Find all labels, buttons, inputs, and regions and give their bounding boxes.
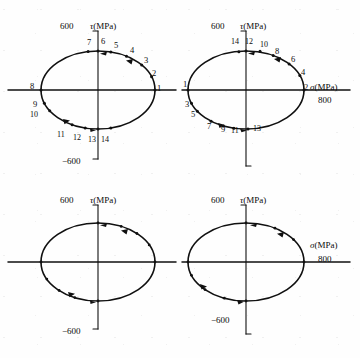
point-label-9-tl: 9 [33,100,37,109]
tau-axis-title-tr: τ(MPa) [240,22,266,31]
point-label-8-tr: 8 [275,47,279,56]
plot-bottom-left-graphic [0,179,180,358]
tau-min-label-bl: −600 [62,327,81,336]
point-label-1-tl: 1 [157,84,161,93]
point-label-5-tr: 5 [191,110,195,119]
figure-page: 600 τ(MPa) −600 1 2 3 4 5 6 7 8 9 10 11 … [0,0,360,358]
point-label-14-tr: 14 [231,38,239,46]
point-label-4-tl: 4 [130,46,134,55]
direction-arrowheads [218,52,281,133]
plot-bottom-right-graphic [180,179,360,358]
point-label-12-tl: 12 [73,134,81,142]
tau-max-label-tl: 600 [60,22,74,31]
tau-axis-title-br: τ(MPa) [240,196,266,205]
direction-arrowheads [200,223,284,304]
tau-unit-bl: (MPa) [93,195,116,205]
tau-max-label-tr: 600 [211,22,225,31]
tau-min-label-br: −600 [211,316,230,325]
point-label-1-tr: 1 [183,80,187,89]
sigma-axis-title-br: σ(MPa) [310,241,337,250]
point-label-13-tl: 13 [88,136,96,144]
sigma-unit-tr: (MPa) [314,82,337,92]
sigma-axis-title-tr: σ(MPa) [310,83,337,92]
point-label-11-tl: 11 [57,131,65,139]
point-label-2-tr: 2 [304,83,308,92]
sigma-max-label-br: 800 [318,255,332,264]
point-label-10-tr: 10 [260,41,268,49]
tau-unit-tr: (MPa) [243,21,266,31]
plot-panel-bottom-left: 600 τ(MPa) −600 [0,179,180,358]
plot-panel-top-left: 600 τ(MPa) −600 1 2 3 4 5 6 7 8 9 10 11 … [0,0,180,179]
tau-min-label-tl: −600 [62,157,81,166]
point-label-13-tr: 13 [253,125,261,133]
point-label-8-tl: 8 [30,82,34,91]
tau-max-label-bl: 600 [60,196,74,205]
point-label-6-tr: 6 [291,55,295,64]
point-label-4-tr: 4 [301,68,305,77]
point-label-14-tl: 14 [101,136,109,144]
point-label-7-tl: 7 [87,38,91,47]
point-label-7-tr: 7 [207,122,211,131]
point-label-9-tr: 9 [221,125,225,134]
point-label-3-tr: 3 [185,100,189,109]
tau-max-label-br: 600 [211,196,225,205]
point-label-6-tl: 6 [101,37,105,46]
point-label-2-tl: 2 [152,69,156,78]
tau-unit-tl: (MPa) [93,21,116,31]
sigma-max-label-tr: 800 [318,96,332,105]
point-label-12-tr: 12 [245,38,253,46]
point-label-11-tr: 11 [231,127,239,135]
point-label-10-tl: 10 [30,111,38,119]
tau-axis-title-tl: τ(MPa) [90,22,116,31]
point-label-3-tl: 3 [144,56,148,65]
point-label-5-tl: 5 [114,41,118,50]
tau-axis-title-bl: τ(MPa) [90,196,116,205]
sigma-unit-br: (MPa) [314,240,337,250]
plot-panel-bottom-right: 600 τ(MPa) −600 σ(MPa) 800 [180,179,360,358]
plot-panel-top-right: 600 τ(MPa) σ(MPa) 800 1 2 3 4 5 6 7 8 9 … [180,0,360,179]
tau-unit-br: (MPa) [243,195,266,205]
